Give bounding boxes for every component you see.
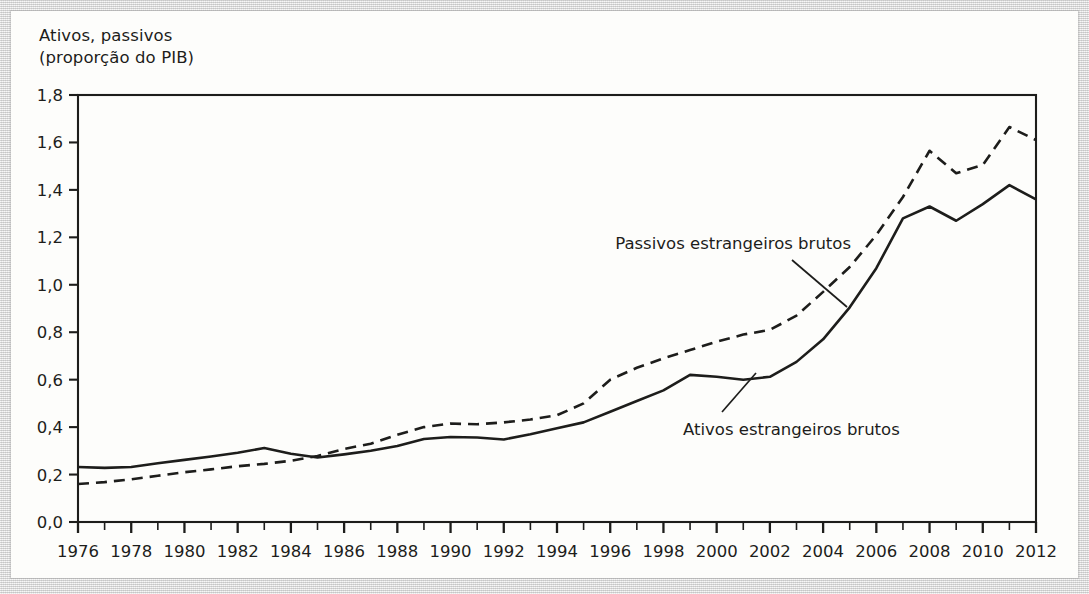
x-tick-label: 1994: [536, 542, 578, 561]
y-tick-label: 1,2: [37, 228, 63, 247]
y-tick-label: 1,0: [37, 276, 63, 295]
y-tick-label: 0,6: [37, 371, 63, 390]
x-tick-label: 2010: [962, 542, 1004, 561]
x-axis-ticks: 1976197819801982198419861988199019921994…: [57, 522, 1057, 561]
x-tick-label: 1986: [323, 542, 365, 561]
x-tick-label: 2012: [1015, 542, 1057, 561]
x-tick-label: 2008: [909, 542, 951, 561]
x-tick-label: 1990: [430, 542, 472, 561]
y-tick-label: 0,8: [37, 323, 63, 342]
x-tick-label: 2004: [802, 542, 844, 561]
x-tick-label: 1988: [376, 542, 418, 561]
x-tick-label: 2002: [749, 542, 791, 561]
figure-card: Ativos, passivos (proporção do PIB) 0,00…: [11, 11, 1078, 578]
x-tick-label: 2006: [855, 542, 897, 561]
y-tick-label: 1,8: [37, 86, 63, 105]
line-chart: 0,00,20,40,60,81,01,21,41,61,8 197619781…: [11, 11, 1078, 578]
y-tick-label: 1,6: [37, 133, 63, 152]
x-tick-label: 2000: [696, 542, 738, 561]
annotation-label-ativos: Ativos estrangeiros brutos: [683, 420, 900, 439]
x-tick-label: 1984: [270, 542, 312, 561]
x-tick-label: 1998: [642, 542, 684, 561]
y-tick-label: 0,2: [37, 466, 63, 485]
y-tick-label: 0,4: [37, 418, 63, 437]
figure-page: Ativos, passivos (proporção do PIB) 0,00…: [0, 0, 1089, 594]
y-tick-label: 0,0: [37, 513, 63, 532]
y-tick-label: 1,4: [37, 181, 63, 200]
y-axis-ticks: 0,00,20,40,60,81,01,21,41,61,8: [37, 86, 78, 532]
x-tick-label: 1992: [483, 542, 525, 561]
x-tick-label: 1982: [217, 542, 259, 561]
x-tick-label: 1976: [57, 542, 99, 561]
plot-frame: [78, 95, 1036, 522]
chart-annotations: Passivos estrangeiros brutosAtivos estra…: [615, 234, 900, 439]
x-tick-label: 1978: [110, 542, 152, 561]
x-tick-label: 1980: [163, 542, 205, 561]
x-tick-label: 1996: [589, 542, 631, 561]
annotation-label-passivos: Passivos estrangeiros brutos: [615, 234, 851, 253]
